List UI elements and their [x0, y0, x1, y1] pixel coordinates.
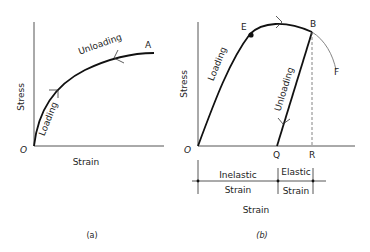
stress-strain-diagram: O A Stress Strain Loading Unloading (a) … [0, 0, 370, 252]
a-y-label: Stress [16, 83, 26, 111]
b-point-B: B [310, 19, 316, 29]
b-elastic-label: Elastic [281, 167, 310, 177]
b-y-label: Stress [179, 70, 189, 98]
b-point-E-marker [248, 32, 253, 37]
b-point-R: R [309, 150, 315, 160]
a-x-label: Strain [73, 157, 100, 167]
a-curve [34, 53, 154, 146]
b-top-arrow [276, 16, 282, 28]
b-continuation-curve [312, 32, 336, 70]
b-point-F: F [334, 67, 339, 77]
b-total-strain-label: Strain [243, 205, 270, 215]
panel-b: O E B F Q R Stress Loading Unloading Ine… [179, 16, 355, 240]
b-dot-Q [277, 180, 280, 183]
panel-a: O A Stress Strain Loading Unloading (a) [16, 22, 164, 240]
b-dot-O [197, 180, 200, 183]
a-origin-label: O [20, 145, 27, 155]
a-caption: (a) [86, 231, 97, 240]
b-caption: (b) [256, 231, 267, 240]
b-dot-R [312, 180, 315, 183]
b-point-E: E [241, 22, 247, 32]
b-unloading-label: Unloading [273, 66, 296, 112]
b-inelastic-strain-label: Strain [225, 185, 252, 195]
a-point-A: A [145, 40, 152, 50]
b-origin-label: O [184, 145, 191, 155]
b-elastic-strain-label: Strain [283, 186, 310, 196]
b-inelastic-label: Inelastic [219, 170, 257, 180]
b-point-Q: Q [273, 150, 280, 160]
